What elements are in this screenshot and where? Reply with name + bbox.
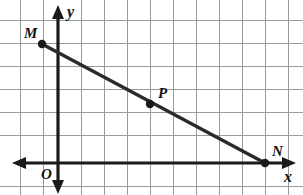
point-n-marker bbox=[261, 159, 269, 167]
point-p-marker bbox=[146, 100, 154, 108]
y-axis-arrow-up bbox=[52, 5, 64, 19]
point-p-label: P bbox=[158, 86, 167, 101]
x-axis-label: x bbox=[284, 169, 292, 185]
origin-label: O bbox=[41, 167, 52, 182]
y-axis bbox=[52, 5, 64, 194]
point-n-label: N bbox=[272, 144, 283, 159]
x-axis bbox=[12, 157, 296, 169]
grid-lines-vertical bbox=[21, 0, 289, 195]
x-axis-arrow-left bbox=[12, 157, 26, 169]
coordinate-plane-figure: M P N O x y bbox=[0, 0, 303, 195]
y-axis-label: y bbox=[67, 4, 74, 20]
point-m-label: M bbox=[24, 26, 37, 41]
point-m-marker bbox=[38, 40, 46, 48]
